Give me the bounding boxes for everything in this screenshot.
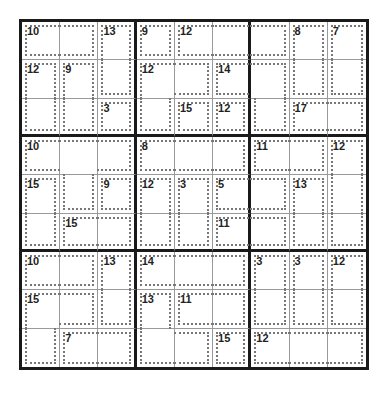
cell-r6c5[interactable] xyxy=(175,214,213,252)
cell-r2c6[interactable]: 14 xyxy=(213,60,251,98)
cell-r7c3[interactable]: 13 xyxy=(98,252,136,290)
cell-r2c3[interactable] xyxy=(98,60,136,98)
cell-r1c4[interactable]: 9 xyxy=(137,22,175,60)
cell-r8c8[interactable] xyxy=(290,290,328,328)
cell-r8c1[interactable]: 15 xyxy=(22,290,60,328)
cell-r3c8[interactable]: 17 xyxy=(290,99,328,137)
cell-r6c1[interactable] xyxy=(22,214,60,252)
cage-outline xyxy=(101,289,130,324)
cell-r1c9[interactable]: 7 xyxy=(328,22,366,60)
cell-r8c4[interactable]: 13 xyxy=(137,290,175,328)
cell-r7c8[interactable]: 3 xyxy=(290,252,328,290)
cell-r7c2[interactable] xyxy=(60,252,98,290)
cell-r7c6[interactable] xyxy=(213,252,251,290)
cage-outline xyxy=(25,328,56,364)
cage-outline xyxy=(101,59,130,94)
cell-r7c5[interactable] xyxy=(175,252,213,290)
cage-sum: 3 xyxy=(180,179,186,190)
cell-r6c8[interactable] xyxy=(290,214,328,252)
cage-sum: 13 xyxy=(103,26,115,37)
cell-r1c6[interactable] xyxy=(213,22,251,60)
cell-r2c2[interactable]: 9 xyxy=(60,60,98,98)
cell-r2c4[interactable]: 12 xyxy=(137,60,175,98)
cell-r5c8[interactable]: 13 xyxy=(290,175,328,213)
cell-r2c9[interactable] xyxy=(328,60,366,98)
cell-r8c9[interactable] xyxy=(328,290,366,328)
cage-outline xyxy=(327,102,363,131)
cell-r8c3[interactable] xyxy=(98,290,136,328)
cage-sum: 9 xyxy=(65,64,71,75)
cell-r5c3[interactable]: 9 xyxy=(98,175,136,213)
cell-r6c9[interactable] xyxy=(328,214,366,252)
cell-r1c7[interactable] xyxy=(251,22,289,60)
cell-r2c1[interactable]: 12 xyxy=(22,60,60,98)
cage-outline xyxy=(331,59,363,94)
cell-r4c5[interactable] xyxy=(175,137,213,175)
cell-r1c5[interactable]: 12 xyxy=(175,22,213,60)
cell-r5c2[interactable] xyxy=(60,175,98,213)
cell-r6c4[interactable] xyxy=(137,214,175,252)
cell-r9c8[interactable] xyxy=(290,329,328,367)
cell-r6c3[interactable] xyxy=(98,214,136,252)
cage-outline xyxy=(212,25,249,56)
cell-r2c5[interactable] xyxy=(175,60,213,98)
cell-r4c6[interactable] xyxy=(213,137,251,175)
cell-r9c9[interactable] xyxy=(328,329,366,367)
cage-outline xyxy=(331,174,363,213)
cell-r3c9[interactable] xyxy=(328,99,366,137)
cage-sum: 11 xyxy=(256,141,268,152)
cell-r5c6[interactable]: 5 xyxy=(213,175,251,213)
cell-r8c7[interactable] xyxy=(251,290,289,328)
cell-r3c4[interactable] xyxy=(137,99,175,137)
cell-r7c7[interactable]: 3 xyxy=(251,252,289,290)
cell-r4c2[interactable] xyxy=(60,137,98,175)
cage-outline xyxy=(59,293,94,324)
cell-r4c1[interactable]: 10 xyxy=(22,137,60,175)
cell-r4c7[interactable]: 11 xyxy=(251,137,289,175)
cage-outline xyxy=(212,293,245,324)
cell-r2c7[interactable] xyxy=(251,60,289,98)
cell-r2c8[interactable] xyxy=(290,60,328,98)
cell-r1c3[interactable]: 13 xyxy=(98,22,136,60)
cell-r9c4[interactable] xyxy=(137,329,175,367)
cell-r6c7[interactable] xyxy=(251,214,289,252)
cell-r3c5[interactable]: 15 xyxy=(175,99,213,137)
cell-r6c6[interactable]: 11 xyxy=(213,214,251,252)
cell-r9c5[interactable] xyxy=(175,329,213,367)
cage-outline xyxy=(293,213,324,246)
cell-r3c1[interactable] xyxy=(22,99,60,137)
cell-r5c7[interactable] xyxy=(251,175,289,213)
cell-r9c2[interactable]: 7 xyxy=(60,329,98,367)
cage-outline xyxy=(59,255,94,286)
cell-r8c5[interactable]: 11 xyxy=(175,290,213,328)
cell-r9c6[interactable]: 15 xyxy=(213,329,251,367)
cage-sum: 12 xyxy=(142,64,154,75)
cell-r7c1[interactable]: 10 xyxy=(22,252,60,290)
cell-r3c6[interactable]: 12 xyxy=(213,99,251,137)
cell-r1c1[interactable]: 10 xyxy=(22,22,60,60)
cell-r7c4[interactable]: 14 xyxy=(137,252,175,290)
cell-r9c1[interactable] xyxy=(22,329,60,367)
cell-r9c3[interactable] xyxy=(98,329,136,367)
cell-r5c1[interactable]: 15 xyxy=(22,175,60,213)
cell-r4c3[interactable] xyxy=(98,137,136,175)
cage-outline xyxy=(250,63,285,98)
cell-r4c4[interactable]: 8 xyxy=(137,137,175,175)
cell-r4c8[interactable] xyxy=(290,137,328,175)
cell-r1c8[interactable]: 8 xyxy=(290,22,328,60)
cell-r7c9[interactable]: 12 xyxy=(328,252,366,290)
cell-r1c2[interactable] xyxy=(60,22,98,60)
cell-r3c3[interactable]: 3 xyxy=(98,99,136,137)
cage-sum: 12 xyxy=(180,26,192,37)
cell-r3c7[interactable] xyxy=(251,99,289,137)
cell-r9c7[interactable]: 12 xyxy=(251,329,289,367)
cage-sum: 9 xyxy=(103,179,109,190)
cell-r4c9[interactable]: 12 xyxy=(328,137,366,175)
cell-r8c2[interactable] xyxy=(60,290,98,328)
cell-r8c6[interactable] xyxy=(213,290,251,328)
cell-r5c4[interactable]: 12 xyxy=(137,175,175,213)
cell-r5c5[interactable]: 3 xyxy=(175,175,213,213)
cell-r6c2[interactable]: 15 xyxy=(60,214,98,252)
cell-r3c2[interactable] xyxy=(60,99,98,137)
cell-r5c9[interactable] xyxy=(328,175,366,213)
